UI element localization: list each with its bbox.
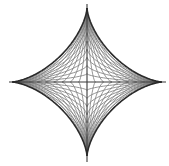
astroid-diagram xyxy=(0,0,169,166)
